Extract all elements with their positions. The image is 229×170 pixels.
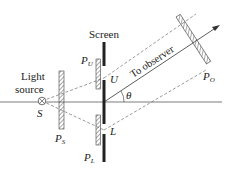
to-observer-label: To observer (128, 43, 176, 80)
slit-u-label: U (110, 73, 119, 85)
source-s-label: S (37, 107, 43, 119)
ray-to-upper-slit (42, 78, 104, 101)
screen-top (103, 42, 106, 66)
polarizer-pu (96, 59, 101, 89)
pu-sub: U (88, 60, 94, 68)
svg-text:PS: PS (54, 132, 66, 146)
svg-text:PU: PU (80, 54, 94, 68)
slit-l-label: L (109, 125, 116, 137)
svg-text:PO: PO (202, 70, 215, 84)
polarizer-pl (96, 115, 101, 145)
pl-sub: L (90, 157, 95, 165)
ray-to-lower-slit (42, 101, 104, 130)
theta-label: θ (126, 89, 132, 101)
ray-to-observer (104, 27, 217, 102)
polarizer-po (176, 14, 211, 64)
arrow-head-icon (212, 25, 220, 31)
svg-text:PL: PL (83, 151, 95, 165)
screen-label: Screen (89, 28, 119, 40)
screen-middle (103, 80, 106, 124)
light-source-label-1: Light (21, 70, 45, 82)
light-source-label-2: source (15, 83, 44, 95)
po-sub: O (210, 76, 215, 84)
ray-lower-to-observer (104, 70, 206, 130)
double-slit-polarizer-diagram: Screen Light source S PS PU PL PO U L θ … (0, 0, 229, 170)
polarizer-ps (59, 71, 64, 129)
screen-bottom (103, 134, 106, 162)
theta-arc (121, 91, 124, 102)
ps-sub: S (62, 138, 66, 146)
